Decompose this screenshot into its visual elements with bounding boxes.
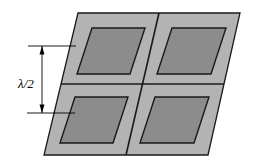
arrow-head-down-icon: [40, 105, 45, 113]
figure-container: λ/2: [0, 0, 254, 164]
array-antenna-diagram: λ/2: [0, 0, 254, 164]
arrow-head-up-icon: [40, 46, 45, 54]
dimension-label-lambda-half: λ/2: [17, 76, 34, 91]
